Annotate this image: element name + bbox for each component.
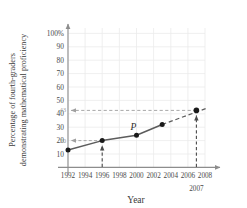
xtick-2008: 2008 xyxy=(198,172,213,180)
projected-year-label: 2007 xyxy=(189,185,204,193)
reference-value-label: 20 xyxy=(60,137,66,144)
ytick-80: 80 xyxy=(57,56,65,65)
ytick-90: 90 xyxy=(57,42,65,51)
ytick-10: 10 xyxy=(57,150,65,159)
xtick-2002: 2002 xyxy=(146,172,161,180)
y-axis-title-line2: demonstrating mathematical proficiency xyxy=(19,33,28,166)
x-axis-title: Year xyxy=(127,195,145,205)
xtick-1992: 1992 xyxy=(61,172,76,180)
xtick-2004: 2004 xyxy=(164,172,179,180)
xtick-1996: 1996 xyxy=(95,172,110,180)
ytick-30: 30 xyxy=(57,123,65,132)
point-p-label: P xyxy=(130,122,137,132)
data-point-2007 xyxy=(194,108,200,114)
x-tick-labels: 1992 1994 1996 1998 2000 2002 2004 2006 … xyxy=(61,172,213,180)
proficiency-line-chart: 10 20 30 40 50 60 70 80 90 100% 1992 199… xyxy=(0,0,247,208)
ytick-100: 100% xyxy=(47,29,64,38)
data-point-2003 xyxy=(160,122,165,127)
ytick-60: 60 xyxy=(57,83,65,92)
y-axis-title-line1: Percentage of fourth-graders xyxy=(8,53,17,147)
data-point-1996 xyxy=(100,138,105,143)
xtick-2000: 2000 xyxy=(129,172,144,180)
ytick-70: 70 xyxy=(57,69,65,78)
xtick-1994: 1994 xyxy=(78,172,93,180)
xtick-1998: 1998 xyxy=(112,172,127,180)
chart-figure: 10 20 30 40 50 60 70 80 90 100% 1992 199… xyxy=(0,0,247,208)
data-point-2000 xyxy=(134,133,139,138)
ytick-50: 50 xyxy=(57,96,65,105)
data-point-1992 xyxy=(66,148,71,153)
projected-value-label: 43 xyxy=(60,106,66,113)
xtick-2006: 2006 xyxy=(181,172,196,180)
